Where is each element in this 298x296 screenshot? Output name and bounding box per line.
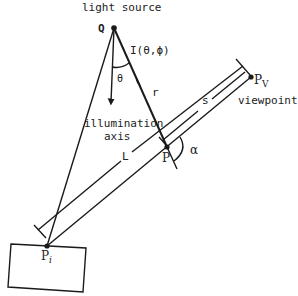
label-Pv: PV bbox=[254, 73, 269, 89]
end-tick-top bbox=[236, 59, 250, 75]
theta-angle-arc bbox=[112, 63, 129, 68]
label-Pv-main: P bbox=[254, 73, 262, 87]
label-Pv-sub: V bbox=[261, 79, 269, 89]
label-axis: axis bbox=[104, 130, 131, 143]
point-Pi bbox=[44, 243, 49, 248]
label-illumination: illumination bbox=[84, 117, 163, 130]
label-viewpoint: viewpoint bbox=[238, 94, 298, 107]
point-Q bbox=[111, 25, 117, 31]
L-dimension-line-b bbox=[132, 66, 243, 152]
L-end-tick-bottom bbox=[34, 225, 46, 238]
label-intensity: I(θ,ϕ) bbox=[130, 44, 170, 57]
label-alpha: α bbox=[190, 143, 198, 157]
view-ray bbox=[47, 77, 251, 246]
label-light-source: light source bbox=[82, 1, 161, 14]
label-Pi: Pi bbox=[41, 249, 52, 265]
volumetric-lighting-diagram: light source Q I(θ,ϕ) θ r illumination a… bbox=[0, 0, 298, 296]
label-P: P bbox=[162, 151, 170, 165]
point-Pv bbox=[248, 74, 253, 79]
label-Pi-main: P bbox=[41, 249, 49, 263]
label-s: s bbox=[202, 94, 209, 107]
label-Pi-sub: i bbox=[49, 255, 52, 265]
point-P bbox=[164, 144, 169, 149]
label-Q: Q bbox=[98, 22, 105, 35]
label-theta: θ bbox=[117, 73, 123, 84]
alpha-angle-arc bbox=[174, 137, 183, 161]
illumination-axis-arrow bbox=[111, 28, 114, 102]
label-L: L bbox=[122, 150, 129, 163]
label-r: r bbox=[152, 86, 159, 99]
